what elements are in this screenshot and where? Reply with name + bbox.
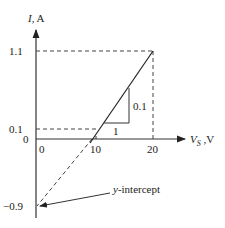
iv-characteristic-diagram: I, A 1.1 0.1 0 −0.9 0 10 20 VS ,V 0.1 1 … — [0, 0, 225, 228]
x-axis-label: VS ,V — [190, 133, 214, 148]
intercept-label: y-intercept — [112, 183, 160, 195]
tick-y-0: 0 — [23, 133, 29, 145]
rise-label: 0.1 — [133, 100, 147, 112]
extrapolation-line — [37, 139, 92, 206]
y-axis-label: I, A — [27, 12, 45, 24]
tick-y-neg-0-9: −0.9 — [3, 200, 23, 212]
tick-x-10: 10 — [90, 143, 102, 155]
tick-x-20: 20 — [147, 143, 159, 155]
tick-x-0: 0 — [39, 143, 45, 155]
intercept-arrow — [40, 193, 110, 206]
iv-line — [90, 51, 153, 143]
tick-y-1-1: 1.1 — [9, 45, 23, 57]
run-label: 1 — [113, 125, 119, 137]
tick-y-0-1: 0.1 — [9, 123, 23, 135]
